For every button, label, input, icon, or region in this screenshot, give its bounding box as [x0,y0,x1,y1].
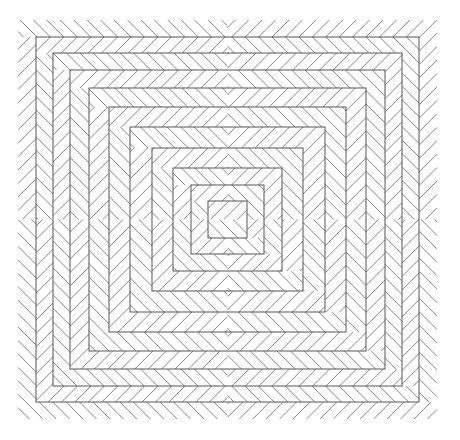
illusion-figure [0,0,460,440]
illusion-canvas [0,0,460,440]
